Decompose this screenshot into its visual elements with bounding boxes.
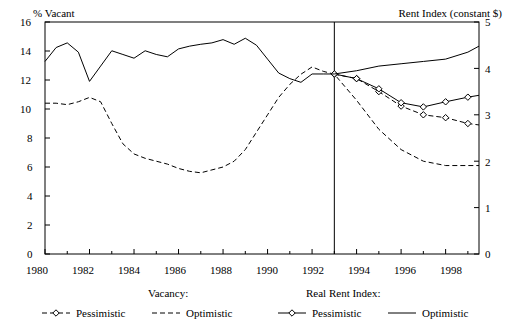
series-line-3 bbox=[45, 38, 479, 82]
plot-canvas bbox=[0, 0, 510, 331]
legend-diamond-vacancy-pessimistic bbox=[53, 310, 59, 316]
series-line-1 bbox=[45, 67, 479, 173]
series-marker-2 bbox=[442, 99, 448, 105]
series-marker-0 bbox=[465, 120, 471, 126]
series-marker-0 bbox=[442, 115, 448, 121]
series-marker-2 bbox=[420, 104, 426, 110]
series-marker-2 bbox=[465, 94, 471, 100]
series-marker-0 bbox=[420, 112, 426, 118]
legend-diamond-rent-pessimistic bbox=[289, 310, 295, 316]
plot-frame bbox=[45, 22, 479, 254]
series-marker-2 bbox=[353, 75, 359, 81]
chart-figure: % Vacant Rent Index (constant $) 16 14 1… bbox=[0, 0, 510, 331]
